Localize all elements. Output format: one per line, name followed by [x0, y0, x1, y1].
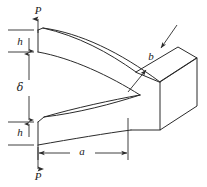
label-height-bottom: h: [17, 126, 23, 138]
upper-arm-back-edge: [43, 28, 136, 72]
label-length-a: a: [79, 145, 85, 157]
lower-arm-back-edge: [44, 95, 140, 117]
lower-arm-bottom-edge: [38, 130, 131, 145]
leader-b-upper: [161, 25, 177, 48]
beam-specimen-diagram: P h δ h a b P: [0, 0, 207, 187]
solid-block: [131, 47, 197, 130]
lower-arm: [38, 95, 140, 145]
figure-root: P h δ h a b P: [0, 0, 207, 187]
label-gap-delta: δ: [17, 81, 24, 94]
block-right-face: [160, 58, 197, 130]
label-height-top: h: [17, 35, 23, 47]
lower-arm-top-edge: [38, 95, 140, 122]
label-load-bottom: P: [34, 170, 42, 182]
label-depth-b: b: [148, 50, 154, 62]
leader-b-lower: [128, 70, 146, 92]
label-load-top: P: [34, 4, 42, 16]
upper-arm: [38, 28, 160, 95]
